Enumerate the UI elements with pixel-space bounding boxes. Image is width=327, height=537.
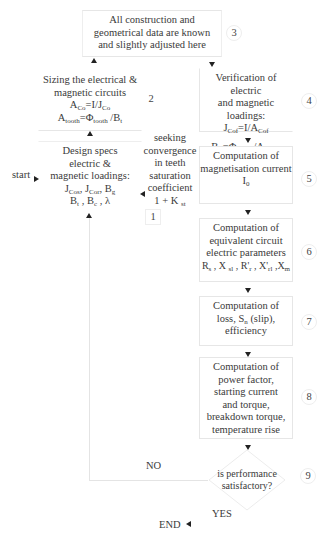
node-1-line-2: electric & [39, 158, 141, 171]
node-7-number: 7 [301, 314, 317, 330]
yes-label: YES [212, 508, 232, 521]
node-5-line-2: magnetisation current [200, 163, 292, 176]
arrow-up-to-node-2 [87, 131, 93, 136]
node-6-box: Computation of equivalent circuit electr… [199, 218, 293, 282]
node-1-formula-1: JCos, JCor, Bg [39, 183, 141, 196]
node-2-formula-2: Atooth=Φtooth /Bt [39, 112, 141, 125]
node-8-box: Computation of power factor, starting cu… [199, 357, 293, 439]
node-1-number: 1 [145, 209, 161, 225]
end-label: END [159, 519, 181, 532]
node-5-line-1: Computation of [200, 150, 292, 163]
node-5-formula: I0 [200, 175, 292, 188]
no-branch-horizontal-line [90, 480, 208, 481]
start-label: start [12, 169, 30, 182]
node-1-line-1: Design specs [39, 145, 141, 158]
arrow-up-to-node-3 [91, 58, 97, 63]
no-branch-vertical-line [89, 218, 90, 481]
node-8-line-3: starting current [200, 386, 292, 399]
feedback-label: seeking convergence in teeth saturation … [141, 132, 199, 207]
arrow-start [34, 176, 39, 182]
node-3-line-1: All construction and [83, 14, 221, 27]
node-4-line-1: Verification of electric [200, 72, 292, 97]
node-5-number: 5 [301, 171, 317, 187]
node-8-line-4: and torque, [200, 399, 292, 412]
node-2-number: 2 [143, 91, 159, 107]
arrow-feedback-to-node-1 [140, 191, 145, 197]
node-3-box: All construction and geometrical data ar… [82, 10, 222, 57]
no-label: NO [146, 460, 161, 473]
node-2-line-2: magnetic circuits [39, 87, 141, 100]
node-1-box: Design specs electric & magnetic loading… [38, 141, 142, 211]
node-5-box: Computation of magnetisation current I0 [199, 146, 293, 204]
feedback-formula: 1 + K st [141, 195, 199, 208]
node-1-line-3: magnetic loadings: [39, 170, 141, 183]
node-6-line-2: equivalent circuit [200, 235, 292, 248]
node-3-number: 3 [226, 25, 242, 41]
node-8-line-2: power factor, [200, 374, 292, 387]
node-6-formula: Rs , X sl , R'r , X'rl ,Xm [200, 260, 292, 273]
node-2-line-1: Sizing the electrical & [39, 74, 141, 87]
arrow-down-to-node-6 [245, 210, 251, 215]
node-1-formula-2: Bt , Bc , λ [39, 195, 141, 208]
node-8-number: 8 [301, 389, 317, 405]
node-8-line-1: Computation of [200, 361, 292, 374]
arrow-down-to-node-4 [209, 62, 215, 67]
node-4-formula-1: JCof=I/ACof [200, 122, 292, 135]
node-8-line-5: breakdown torque, [200, 411, 292, 424]
node-6-number: 6 [301, 244, 317, 260]
node-3-line-2: geometrical data are known [83, 27, 221, 40]
node-7-line-3: efficiency [200, 325, 292, 338]
node-2-formula-1: ACo=I/JCo [39, 99, 141, 112]
node-7-box: Computation of loss, Sn (slip), efficien… [199, 296, 293, 346]
node-2-box: Sizing the electrical & magnetic circuit… [38, 70, 142, 131]
node-9-text: is performance satisfactory? [212, 468, 282, 492]
node-9-number: 9 [300, 468, 316, 484]
node-3-line-3: and slightly adjusted here [83, 39, 221, 52]
node-4-number: 4 [301, 93, 317, 109]
arrow-down-to-node-5 [245, 138, 251, 143]
node-6-line-3: electric parameters [200, 247, 292, 260]
node-4-box: Verification of electric and magnetic lo… [199, 68, 293, 132]
node-6-line-1: Computation of [200, 222, 292, 235]
node-7-line-1: Computation of [200, 300, 292, 313]
node-7-line-2: loss, Sn (slip), [200, 313, 292, 326]
arrow-to-end [186, 521, 191, 527]
node-8-line-6: temperature rise [200, 424, 292, 437]
node-4-line-2: and magnetic loadings: [200, 97, 292, 122]
arrow-down-to-node-7 [245, 288, 251, 293]
arrow-up-to-node-1 [86, 213, 92, 218]
